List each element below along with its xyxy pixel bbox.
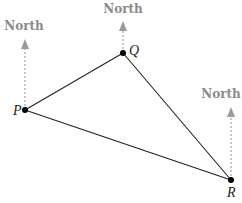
edge-pr [25, 110, 231, 180]
point-q [120, 50, 126, 56]
bearing-diagram: North North North P Q R [0, 0, 242, 203]
north-label-r: North [201, 87, 241, 101]
north-arrow-p: North [4, 19, 44, 106]
arrowhead-icon [21, 39, 29, 49]
north-arrow-r: North [201, 87, 241, 176]
label-p: P [12, 103, 22, 118]
label-q: Q [129, 43, 139, 58]
point-p [22, 107, 28, 113]
edge-qr [123, 53, 231, 180]
label-r: R [226, 185, 236, 200]
north-arrow-q: North [103, 2, 143, 49]
north-label-q: North [103, 2, 143, 16]
north-label-p: North [4, 19, 44, 33]
point-r [228, 177, 234, 183]
arrowhead-icon [227, 107, 235, 117]
edge-pq [25, 53, 123, 110]
arrowhead-icon [119, 21, 127, 31]
